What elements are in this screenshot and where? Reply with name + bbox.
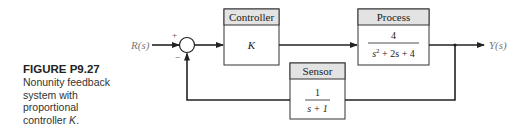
sensor-block: Sensor 1 s + 1 — [290, 63, 345, 119]
sensor-header: Sensor — [303, 65, 333, 77]
block-diagram: R(s) + − Controller K Process 4 s2 + 2s … — [0, 0, 528, 134]
controller-block: Controller K — [224, 9, 279, 65]
minus-sign: − — [175, 52, 181, 63]
sensor-numerator: 1 — [315, 87, 320, 98]
controller-gain: K — [247, 39, 256, 51]
controller-header: Controller — [229, 11, 275, 23]
input-label: R(s) — [130, 39, 150, 52]
output-label: Y(s) — [489, 39, 507, 52]
process-header: Process — [377, 11, 411, 23]
summing-junction — [180, 38, 195, 53]
plus-sign: + — [172, 30, 177, 40]
process-numerator: 4 — [391, 30, 396, 41]
sensor-denominator: s + 1 — [307, 103, 328, 114]
process-block: Process 4 s2 + 2s + 4 — [358, 9, 429, 65]
